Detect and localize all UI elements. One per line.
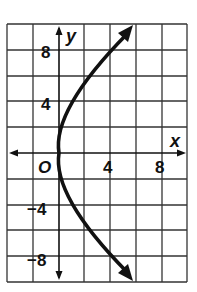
y-tick-label: 4 [41, 96, 50, 113]
x-axis-label: x [170, 132, 180, 150]
x-tick-label: 8 [155, 159, 164, 176]
y-tick-label: −8 [27, 252, 46, 269]
x-axis-left-arrow-icon [9, 150, 18, 157]
coordinate-grid [0, 0, 197, 292]
y-tick-label: −4 [27, 201, 46, 218]
origin-label: O [38, 159, 51, 176]
y-tick-label: 8 [41, 44, 50, 61]
y-axis-label: y [66, 27, 76, 45]
x-tick-label: 4 [103, 159, 112, 176]
y-axis-down-arrow-icon [56, 271, 63, 280]
y-axis-up-arrow-icon [56, 26, 63, 35]
